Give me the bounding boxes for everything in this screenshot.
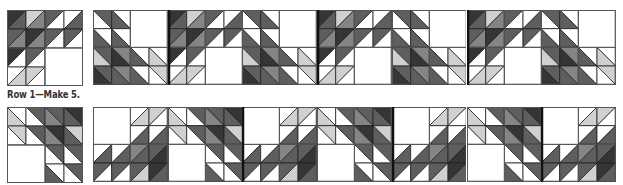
- row-caption: Row 1—Make 5.: [7, 89, 80, 100]
- plain-square-patch: [541, 107, 578, 144]
- quilt-block-D: [541, 107, 616, 182]
- plain-square-patch: [429, 10, 466, 47]
- plain-square-patch: [354, 47, 391, 84]
- plain-square-patch: [467, 144, 504, 181]
- strip-block: [392, 107, 467, 182]
- plain-square-patch: [504, 47, 541, 84]
- strip-block: [467, 107, 542, 182]
- quilt-strip-row1: [93, 10, 616, 85]
- plain-square-patch: [242, 107, 279, 144]
- strip-block: [317, 10, 392, 85]
- plain-square-patch: [93, 107, 130, 144]
- strip-block: [168, 10, 243, 85]
- quilt-block-A: [392, 10, 467, 85]
- quilt-block-D: [93, 107, 168, 182]
- quilt-block-A: [541, 10, 616, 85]
- quilt-block-A: [93, 10, 168, 85]
- strip-block: [93, 10, 168, 85]
- quilt-block-C: [168, 107, 243, 182]
- quilt-block-B: [7, 10, 83, 86]
- plain-square-patch: [168, 144, 205, 181]
- quilt-block-C: [7, 107, 83, 183]
- strip-block: [541, 10, 616, 85]
- quilt-block-A: [242, 10, 317, 85]
- strip-block: [467, 10, 542, 85]
- plain-square-patch: [7, 145, 45, 183]
- quilt-block-D: [392, 107, 467, 182]
- quilt-block-C: [467, 107, 542, 182]
- plain-square-patch: [392, 107, 429, 144]
- quilt-strip-row2: [93, 107, 616, 182]
- plain-square-patch: [45, 48, 83, 86]
- strip-block: [168, 107, 243, 182]
- plain-square-patch: [317, 144, 354, 181]
- plain-square-patch: [280, 10, 317, 47]
- strip-block: [242, 107, 317, 182]
- strip-block: [541, 107, 616, 182]
- strip-block: [317, 107, 392, 182]
- strip-block: [93, 107, 168, 182]
- strip-block: [242, 10, 317, 85]
- single-block-row2: [7, 107, 83, 183]
- plain-square-patch: [579, 10, 616, 47]
- strip-block: [392, 10, 467, 85]
- quilt-block-D: [242, 107, 317, 182]
- quilt-block-B: [467, 10, 542, 85]
- quilt-block-B: [317, 10, 392, 85]
- plain-square-patch: [205, 47, 242, 84]
- quilt-block-C: [317, 107, 392, 182]
- plain-square-patch: [130, 10, 167, 47]
- single-block-row1: [7, 10, 83, 86]
- quilt-block-B: [168, 10, 243, 85]
